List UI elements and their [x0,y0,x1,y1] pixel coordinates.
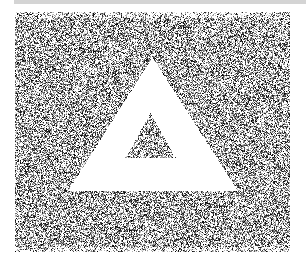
noise-image [15,12,290,252]
top-bar [14,0,306,4]
triangle-noise-canvas [15,12,290,252]
